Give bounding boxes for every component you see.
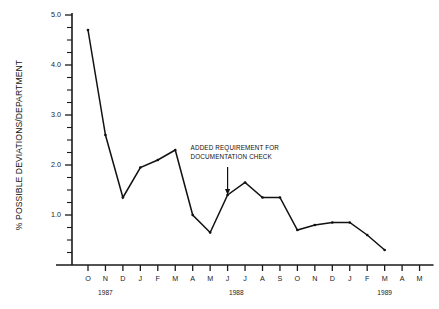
x-tick-label: J [243,274,247,283]
data-point-marker [122,196,125,199]
chart-annotation: ADDED REQUIREMENT FORDOCUMENTATION CHECK [191,144,280,195]
y-axis-title-text: % POSSIBLE DEVIATIONS/DEPARTMENT [14,59,24,230]
x-tick-label: S [278,274,283,283]
x-tick-label: A [260,274,265,283]
y-tick-label: 2.0 [51,160,61,169]
annotation-text-line: ADDED REQUIREMENT FOR [191,144,280,152]
y-axis [65,13,72,265]
data-point-marker [209,231,212,234]
deviations-line-chart: 1.02.03.04.05.0 ONDJFMAMJJASONDJFMAM 198… [0,0,439,309]
x-tick-label: M [417,274,423,283]
x-tick-label: O [295,274,301,283]
chart-container: 1.02.03.04.05.0 ONDJFMAMJJASONDJFMAM 198… [0,0,439,309]
x-tick-label: N [312,274,317,283]
data-point-marker [366,234,369,237]
x-axis-year-label: 1989 [377,289,392,296]
x-tick-label: D [120,274,125,283]
data-series-line [88,30,385,250]
data-point-marker [261,196,264,199]
x-tick-label: A [400,274,405,283]
data-point-marker [383,249,386,252]
x-tick-label: F [156,274,161,283]
x-tick-label: D [330,274,335,283]
data-point-marker [156,159,159,162]
data-point-marker [279,196,282,199]
y-tick-label: 3.0 [51,110,61,119]
x-axis-year-label: 1987 [98,289,113,296]
x-tick-label: N [103,274,108,283]
y-tick-label: 4.0 [51,60,61,69]
x-tick-label: M [382,274,388,283]
data-point-marker [331,221,334,224]
series-polyline [88,30,385,250]
x-tick-label: J [139,274,143,283]
x-tick-label: M [172,274,178,283]
x-axis-tick-labels: ONDJFMAMJJASONDJFMAM [85,274,422,283]
data-point-marker [139,166,142,169]
x-tick-label: J [348,274,352,283]
data-point-marker [296,229,299,232]
data-point-marker [244,181,247,184]
x-tick-label: A [190,274,195,283]
x-tick-label: J [226,274,230,283]
data-point-marker [348,221,351,224]
x-axis [56,265,434,271]
x-axis-year-label: 1988 [229,289,244,296]
x-tick-label: M [207,274,213,283]
y-tick-label: 1.0 [51,210,61,219]
data-point-marker [191,214,194,217]
annotation-text-line: DOCUMENTATION CHECK [191,153,273,160]
y-tick-label: 5.0 [51,10,61,19]
data-point-marker [174,149,177,152]
data-point-marker [87,29,90,32]
data-point-markers [87,29,386,252]
data-point-marker [314,224,317,227]
y-axis-tick-labels: 1.02.03.04.05.0 [51,10,61,219]
data-point-marker [104,134,107,137]
x-tick-label: F [365,274,370,283]
x-tick-label: O [85,274,91,283]
x-axis-year-labels: 198719881989 [98,289,392,296]
y-axis-title: % POSSIBLE DEVIATIONS/DEPARTMENT [14,59,24,230]
